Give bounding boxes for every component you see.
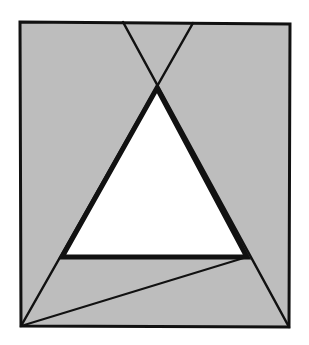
- geometry-diagram: [0, 0, 309, 345]
